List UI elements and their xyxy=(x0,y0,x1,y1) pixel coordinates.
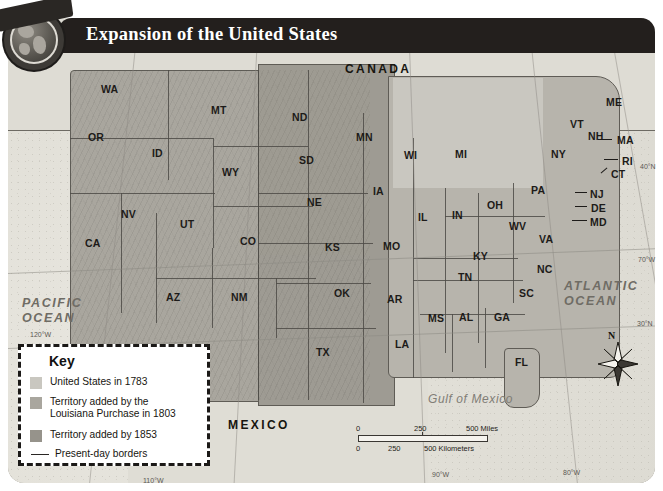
state-label-co: CO xyxy=(240,235,256,247)
key-label-present-borders: Present-day borders xyxy=(55,448,147,460)
scale-miles-end: 500 Miles xyxy=(466,424,498,433)
state-label-nc: NC xyxy=(537,263,553,275)
key-item-louisiana: Territory added by the Louisiana Purchas… xyxy=(30,396,176,419)
scale-km-end: 500 Kilometers xyxy=(424,444,474,453)
key-swatch-us-1783 xyxy=(30,377,42,389)
state-label-tn: TN xyxy=(458,271,472,283)
state-label-az: AZ xyxy=(166,291,180,303)
state-label-tx: TX xyxy=(316,346,330,358)
country-label-canada: CANADA xyxy=(345,62,411,76)
state-label-sc: SC xyxy=(519,287,534,299)
compass-north-label: N xyxy=(608,330,615,341)
key-item-us-1783: United States in 1783 xyxy=(30,376,147,389)
scale-km-mid: 250 xyxy=(388,444,401,453)
state-label-wa: WA xyxy=(101,83,118,95)
state-label-oh: OH xyxy=(487,199,503,211)
map-skill-badge: MAP SKILL xyxy=(0,0,72,72)
graticule-label-2: 90°W xyxy=(432,471,449,478)
water-label-gulf-of-mexico: Gulf of Mexico xyxy=(428,392,513,406)
state-label-wy: WY xyxy=(222,166,239,178)
state-label-ms: MS xyxy=(428,312,444,324)
state-label-ga: GA xyxy=(494,311,510,323)
state-label-id: ID xyxy=(152,147,163,159)
graticule-label-3: 80°W xyxy=(563,469,580,476)
leader-line-nj xyxy=(575,192,587,193)
scale-km-start: 0 xyxy=(356,444,360,453)
key-label-louisiana: Territory added by the Louisiana Purchas… xyxy=(50,396,176,419)
graticule-label-0: 120°W xyxy=(30,331,51,338)
state-label-al: AL xyxy=(459,311,473,323)
state-label-wi: WI xyxy=(404,149,417,161)
compass-rose: N xyxy=(596,330,640,388)
key-swatch-present-borders xyxy=(31,454,49,455)
state-label-mo: MO xyxy=(383,240,400,252)
state-label-ky: KY xyxy=(473,250,488,262)
country-label-mexico: MEXICO xyxy=(228,418,290,432)
graticule-label-1: 110°W xyxy=(143,477,164,484)
state-label-va: VA xyxy=(539,233,553,245)
state-label-md: MD xyxy=(590,216,607,228)
graticule-label-4: 70°W xyxy=(638,256,655,263)
key-title: Key xyxy=(49,353,75,369)
state-label-ny: NY xyxy=(551,148,566,160)
key-item-1853: Territory added by 1853 xyxy=(30,429,157,442)
state-label-nm: NM xyxy=(231,291,248,303)
state-label-pa: PA xyxy=(531,184,545,196)
ocean-label-pacific-ocean: PACIFICOCEAN xyxy=(22,296,82,326)
leader-line-ma xyxy=(598,139,612,140)
graticule-label-5: 30°N xyxy=(637,320,653,327)
compass-rose-icon xyxy=(598,342,638,390)
state-label-mi: MI xyxy=(455,148,467,160)
state-label-nd: ND xyxy=(292,111,308,123)
ocean-label-atlantic-ocean: ATLANTICOCEAN xyxy=(564,279,638,309)
state-label-nh: NH xyxy=(588,130,604,142)
state-label-nv: NV xyxy=(121,208,136,220)
state-label-ri: RI xyxy=(622,155,633,167)
scale-miles-mid: 250 xyxy=(414,424,427,433)
state-label-la: LA xyxy=(395,338,409,350)
state-label-ar: AR xyxy=(387,293,403,305)
state-label-ma: MA xyxy=(617,134,634,146)
state-label-de: DE xyxy=(591,202,606,214)
state-label-wv: WV xyxy=(509,220,526,232)
state-label-ca: CA xyxy=(85,237,101,249)
map-key: Key United States in 1783 Territory adde… xyxy=(18,344,210,466)
state-label-me: ME xyxy=(606,96,622,108)
state-label-nj: NJ xyxy=(590,188,604,200)
state-label-mn: MN xyxy=(356,131,373,143)
state-label-ks: KS xyxy=(325,241,340,253)
map-page: Expansion of the United States MAP SKILL… xyxy=(0,0,663,491)
scale-miles-start: 0 xyxy=(356,424,360,433)
leader-line-md xyxy=(572,220,587,221)
scale-bar-track xyxy=(358,435,488,442)
state-label-fl: FL xyxy=(515,356,528,368)
state-label-sd: SD xyxy=(299,154,314,166)
state-label-or: OR xyxy=(88,131,104,143)
state-label-ne: NE xyxy=(307,196,322,208)
state-label-ia: IA xyxy=(373,185,384,197)
state-label-ut: UT xyxy=(180,218,194,230)
state-label-mt: MT xyxy=(211,104,227,116)
key-label-us-1783: United States in 1783 xyxy=(50,376,147,388)
key-swatch-louisiana xyxy=(30,397,42,409)
leader-line-de xyxy=(575,206,587,207)
graticule-label-6: 40°N xyxy=(640,163,656,170)
key-label-1853: Territory added by 1853 xyxy=(50,429,157,441)
state-label-ok: OK xyxy=(334,287,350,299)
state-label-ct: CT xyxy=(611,168,625,180)
state-label-il: IL xyxy=(418,211,428,223)
leader-line-ri xyxy=(604,159,618,160)
state-label-vt: VT xyxy=(570,118,584,130)
state-label-in: IN xyxy=(452,209,463,221)
key-swatch-1853 xyxy=(30,430,42,442)
